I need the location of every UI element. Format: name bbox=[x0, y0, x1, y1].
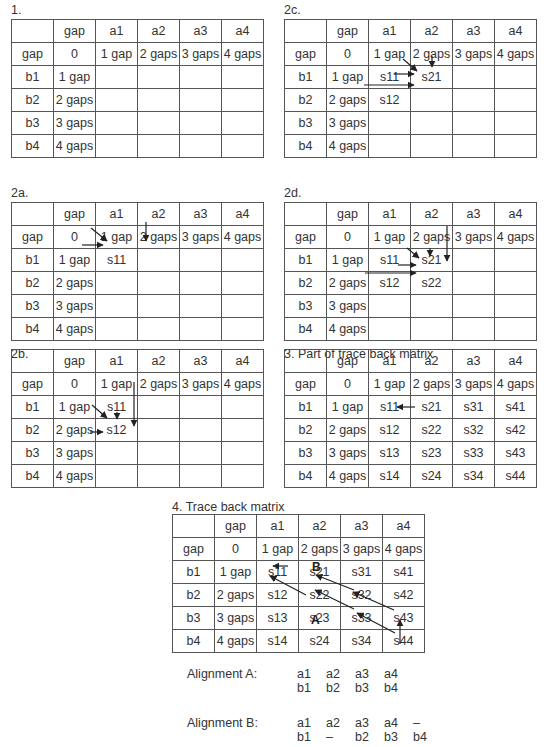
column-header: a4 bbox=[495, 350, 537, 373]
column-header bbox=[12, 203, 54, 226]
row-header: b4 bbox=[12, 135, 54, 158]
matrix-cell bbox=[495, 318, 537, 341]
matrix-panel-2d: gapa1a2a3a4gap01 gap2 gaps3 gaps4 gapsb1… bbox=[284, 202, 537, 341]
column-header: a1 bbox=[369, 20, 411, 43]
matrix-cell bbox=[495, 249, 537, 272]
matrix-cell bbox=[222, 419, 264, 442]
matrix-cell bbox=[138, 66, 180, 89]
row-header: gap bbox=[285, 226, 327, 249]
column-header: gap bbox=[215, 515, 257, 538]
matrix-cell: 3 gaps bbox=[453, 373, 495, 396]
matrix-cell: s34 bbox=[341, 630, 383, 653]
column-header: a3 bbox=[453, 203, 495, 226]
matrix-cell: 2 gaps bbox=[54, 419, 96, 442]
matrix-panel-4: gapa1a2a3a4gap01 gap2 gaps3 gaps4 gapsb1… bbox=[172, 514, 425, 653]
matrix-cell: s32 bbox=[341, 584, 383, 607]
matrix-cell: s43 bbox=[383, 607, 425, 630]
matrix-row: b11 gaps11 bbox=[12, 396, 264, 419]
column-header bbox=[285, 350, 327, 373]
matrix-cell: s21 bbox=[411, 66, 453, 89]
alignment-residue: a4 bbox=[384, 716, 410, 730]
matrix-cell bbox=[180, 465, 222, 488]
row-header: b3 bbox=[12, 112, 54, 135]
alignment-residue: a1 bbox=[297, 716, 323, 730]
matrix-panel-2a: gapa1a2a3a4gap01 gap2 gaps3 gaps4 gapsb1… bbox=[11, 202, 264, 341]
matrix-cell: 4 gaps bbox=[215, 630, 257, 653]
column-header: a1 bbox=[96, 20, 138, 43]
matrix-cell: 2 gaps bbox=[138, 226, 180, 249]
matrix-cell: 3 gaps bbox=[54, 112, 96, 135]
matrix-cell: 4 gaps bbox=[495, 43, 537, 66]
row-header: b4 bbox=[173, 630, 215, 653]
matrix-cell bbox=[369, 295, 411, 318]
column-header: a4 bbox=[222, 20, 264, 43]
column-header: a2 bbox=[411, 350, 453, 373]
row-header: b2 bbox=[12, 272, 54, 295]
matrix-cell: 2 gaps bbox=[138, 43, 180, 66]
matrix-cell bbox=[96, 89, 138, 112]
column-header: a3 bbox=[341, 515, 383, 538]
matrix-cell bbox=[138, 318, 180, 341]
matrix-cell: s12 bbox=[96, 419, 138, 442]
row-header: b3 bbox=[285, 442, 327, 465]
row-header: b1 bbox=[12, 66, 54, 89]
matrix-cell: 2 gaps bbox=[327, 419, 369, 442]
matrix-cell: 2 gaps bbox=[138, 373, 180, 396]
matrix-row: b11 gaps11s21s31s41 bbox=[173, 561, 425, 584]
matrix-cell: 2 gaps bbox=[411, 43, 453, 66]
matrix-cell bbox=[411, 135, 453, 158]
matrix-cell: s12 bbox=[369, 272, 411, 295]
matrix-cell: 4 gaps bbox=[495, 373, 537, 396]
matrix-cell bbox=[369, 318, 411, 341]
matrix-row: gap01 gap2 gaps3 gaps4 gaps bbox=[285, 373, 537, 396]
header-row: gapa1a2a3a4 bbox=[173, 515, 425, 538]
matrix-cell: s22 bbox=[299, 584, 341, 607]
matrix-cell: s21 bbox=[411, 396, 453, 419]
matrix-cell: 1 gap bbox=[96, 373, 138, 396]
matrix-cell bbox=[180, 249, 222, 272]
row-header: gap bbox=[12, 373, 54, 396]
matrix-cell: 1 gap bbox=[96, 43, 138, 66]
matrix-cell: 3 gaps bbox=[327, 295, 369, 318]
matrix-cell: s41 bbox=[495, 396, 537, 419]
matrix-cell bbox=[453, 112, 495, 135]
alignment-residue: b2 bbox=[355, 730, 381, 744]
matrix-cell bbox=[222, 465, 264, 488]
column-header: a1 bbox=[369, 350, 411, 373]
header-row: gapa1a2a3a4 bbox=[12, 20, 264, 43]
column-header: a1 bbox=[369, 203, 411, 226]
column-header: gap bbox=[54, 350, 96, 373]
matrix-cell bbox=[138, 272, 180, 295]
matrix-cell: 1 gap bbox=[54, 249, 96, 272]
matrix-cell: s13 bbox=[257, 607, 299, 630]
column-header: a2 bbox=[138, 203, 180, 226]
matrix-cell: s12 bbox=[369, 419, 411, 442]
alignment-residue: b2 bbox=[326, 681, 352, 695]
row-header: gap bbox=[285, 43, 327, 66]
row-header: gap bbox=[285, 373, 327, 396]
matrix-cell: s31 bbox=[453, 396, 495, 419]
row-header: b4 bbox=[285, 318, 327, 341]
matrix-cell bbox=[96, 295, 138, 318]
row-header: b1 bbox=[285, 66, 327, 89]
matrix-cell: s22 bbox=[411, 272, 453, 295]
panel-title-2d: 2d. bbox=[284, 186, 301, 200]
matrix-cell bbox=[180, 112, 222, 135]
matrix-cell: s12 bbox=[257, 584, 299, 607]
column-header: gap bbox=[327, 350, 369, 373]
matrix-cell bbox=[369, 135, 411, 158]
matrix-cell: s11 bbox=[96, 396, 138, 419]
matrix-row: b22 gaps bbox=[12, 272, 264, 295]
matrix-cell bbox=[180, 89, 222, 112]
matrix-cell: 3 gaps bbox=[180, 43, 222, 66]
matrix-cell: 2 gaps bbox=[54, 272, 96, 295]
column-header: a2 bbox=[138, 350, 180, 373]
matrix-row: b33 gaps bbox=[285, 295, 537, 318]
alignment-residue: a4 bbox=[384, 667, 410, 681]
row-header: b2 bbox=[285, 89, 327, 112]
row-header: gap bbox=[12, 226, 54, 249]
matrix-cell bbox=[222, 318, 264, 341]
matrix-cell: 0 bbox=[54, 226, 96, 249]
matrix-cell: 3 gaps bbox=[453, 226, 495, 249]
column-header: a4 bbox=[495, 203, 537, 226]
